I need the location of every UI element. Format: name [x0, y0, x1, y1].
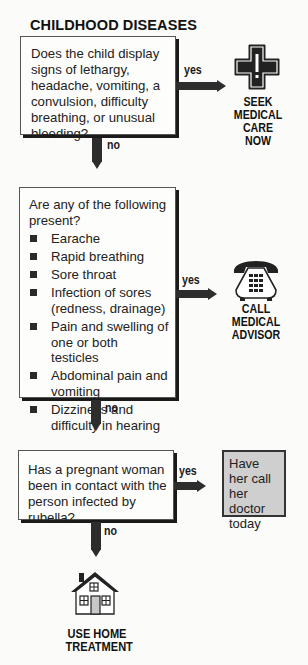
bullet-icon — [30, 271, 37, 278]
no-label-1: no — [107, 138, 120, 152]
yes-label-2: yes — [182, 273, 200, 287]
yes-arrow-1 — [176, 82, 218, 90]
no-label-3: no — [104, 524, 117, 538]
no-arrow-1 — [92, 138, 102, 162]
list-item: Rapid breathing — [29, 249, 169, 265]
no-label-2: no — [105, 401, 118, 415]
list-item: Sore throat — [29, 267, 169, 283]
seek-medical-care-label: SEEK MEDICAL CARE NOW — [233, 96, 284, 148]
list-item: Infection of sores (redness, drainage) — [29, 285, 169, 316]
call-doctor-box: Have her call her doctor today — [222, 450, 286, 517]
yes-arrow-3 — [174, 482, 198, 490]
bullet-icon — [30, 406, 37, 413]
bullet-icon — [30, 253, 37, 260]
question-1-text: Does the child display signs of lethargy… — [31, 46, 167, 142]
question-box-1: Does the child display signs of lethargy… — [20, 36, 176, 135]
bullet-icon — [30, 372, 37, 379]
list-item: Abdominal pain and vomiting — [29, 368, 169, 399]
yes-label-1: yes — [184, 63, 202, 77]
medical-cross-icon — [234, 44, 280, 94]
bullet-icon — [30, 323, 37, 330]
yes-arrow-2 — [176, 290, 209, 298]
question-3-text: Has a pregnant woman been in contact wit… — [28, 462, 167, 526]
no-arrow-2 — [91, 400, 101, 424]
house-icon — [70, 571, 120, 620]
telephone-icon — [232, 256, 280, 306]
question-box-2: Are any of the following present? Earach… — [19, 187, 176, 398]
list-item: Pain and swelling of one or both testicl… — [29, 319, 169, 366]
no-arrow-3 — [91, 522, 101, 550]
diagram-title: CHILDHOOD DISEASES — [30, 17, 197, 33]
use-home-treatment-label: USE HOME TREATMENT — [66, 627, 129, 653]
list-item: Earache — [29, 231, 169, 247]
yes-label-3: yes — [179, 464, 197, 478]
call-medical-advisor-label: CALL MEDICAL ADVISOR — [231, 303, 282, 342]
bullet-icon — [30, 235, 37, 242]
question-2-intro: Are any of the following present? — [29, 197, 169, 229]
question-box-3: Has a pregnant woman been in contact wit… — [18, 450, 174, 520]
bullet-icon — [30, 289, 37, 296]
